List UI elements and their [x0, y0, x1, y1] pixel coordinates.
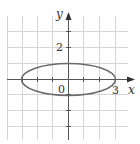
- axes: [7, 18, 130, 140]
- origin-label: 0: [58, 83, 65, 96]
- y-axis-arrow-icon: [66, 12, 72, 20]
- tick-label-x-3: 3: [112, 84, 119, 97]
- x-axis-arrow-icon: [127, 77, 135, 83]
- tick-label-y-2: 2: [56, 41, 63, 54]
- x-axis-label: x: [128, 83, 135, 97]
- grid: [7, 16, 128, 140]
- ellipse-diagram: y x 2 0 3: [0, 0, 140, 144]
- y-axis-label: y: [55, 7, 63, 21]
